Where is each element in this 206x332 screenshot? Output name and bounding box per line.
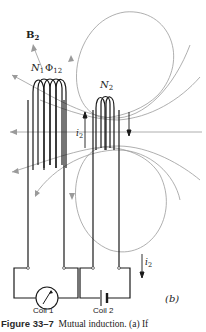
arrow-lower-1 xyxy=(12,168,19,174)
battery-icon xyxy=(101,290,107,306)
coil1-terminal-right xyxy=(63,267,66,270)
arrow-bottom-loop xyxy=(69,193,75,200)
label-phi12: Φ12 xyxy=(45,62,62,75)
label-i2-upper: i2 xyxy=(76,128,83,140)
label-b2: B2 xyxy=(26,29,39,42)
coil-2 xyxy=(80,97,130,299)
field-line-bottom-loop xyxy=(75,147,166,252)
label-n2: N2 xyxy=(99,79,113,92)
current-arrow-upper xyxy=(83,112,87,148)
figure-number: Figure 33–7 xyxy=(1,318,54,329)
coil2-terminal-right xyxy=(118,267,121,270)
figure-caption: Figure 33–7 Mutual induction. (a) If xyxy=(1,318,206,332)
coil-1 xyxy=(14,79,78,298)
mutual-induction-diagram: B2 N1 Φ12 N2 i2 i2 Coil 1 Coil 2 (b) xyxy=(0,0,206,332)
coil2-terminal-left xyxy=(92,267,95,270)
label-n1: N1 xyxy=(30,62,44,75)
coil1-terminal-left xyxy=(27,267,30,270)
label-panel-b: (b) xyxy=(165,293,179,304)
label-coil-1: Coil 1 xyxy=(33,306,54,315)
label-i2-lower: i2 xyxy=(145,257,152,269)
current-arrow-lower xyxy=(140,254,144,278)
field-line-top-loop xyxy=(76,12,173,118)
arrow-axis xyxy=(10,129,17,135)
arrow-top-loop xyxy=(68,55,74,62)
caption-text: Mutual induction. (a) If xyxy=(59,319,149,329)
label-coil-2: Coil 2 xyxy=(93,306,114,315)
